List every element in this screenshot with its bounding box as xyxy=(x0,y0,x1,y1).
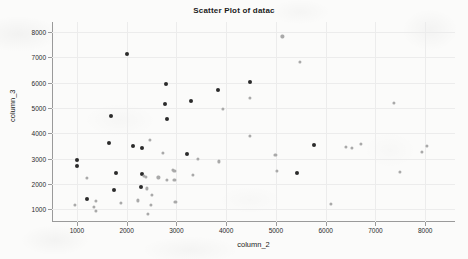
scatter-point xyxy=(161,152,164,155)
scatter-point xyxy=(145,187,148,190)
scatter-point xyxy=(248,80,252,84)
x-axis-label: column_2 xyxy=(52,240,455,249)
gridline-vertical xyxy=(276,22,277,222)
scatter-point xyxy=(192,173,195,176)
y-axis-label: column_3 xyxy=(8,89,17,122)
scatter-point xyxy=(139,185,143,189)
x-tick xyxy=(77,222,78,226)
scatter-point xyxy=(75,158,79,162)
y-tick-label: 6000 xyxy=(32,79,46,86)
scatter-point xyxy=(93,205,96,208)
y-tick xyxy=(48,184,52,185)
scatter-point xyxy=(94,199,97,202)
scatter-point xyxy=(189,99,193,103)
gridline-horizontal xyxy=(52,83,455,84)
x-tick-label: 8000 xyxy=(418,227,432,234)
x-tick xyxy=(176,222,177,226)
y-tick xyxy=(48,32,52,33)
gridline-vertical xyxy=(176,22,177,222)
scatter-point xyxy=(420,151,423,154)
x-tick-label: 7000 xyxy=(368,227,382,234)
x-tick xyxy=(276,222,277,226)
x-tick xyxy=(326,222,327,226)
scatter-point xyxy=(350,146,353,149)
scatter-point xyxy=(148,138,151,141)
scatter-point xyxy=(248,96,251,99)
chart-title: Scatter Plot of datac xyxy=(0,6,468,15)
scatter-point xyxy=(131,144,135,148)
gridline-horizontal xyxy=(52,184,455,185)
x-tick-label: 6000 xyxy=(318,227,332,234)
scatter-point xyxy=(393,101,396,104)
scatter-point xyxy=(218,160,221,163)
scatter-point xyxy=(298,60,301,63)
plot-area: 10002000300040005000600070008000 1000200… xyxy=(52,22,455,222)
scatter-point xyxy=(119,201,122,204)
scatter-point xyxy=(144,175,147,178)
y-tick-label: 7000 xyxy=(32,54,46,61)
scatter-point xyxy=(85,197,89,201)
scatter-point xyxy=(146,212,149,215)
scatter-point xyxy=(114,171,118,175)
scatter-point xyxy=(165,178,168,181)
x-tick-label: 5000 xyxy=(269,227,283,234)
scatter-point xyxy=(344,145,347,148)
scatter-point xyxy=(399,170,402,173)
gridline-horizontal xyxy=(52,209,455,210)
gridline-horizontal xyxy=(52,133,455,134)
scatter-point xyxy=(312,143,316,147)
scatter-point xyxy=(359,142,362,145)
scatter-point xyxy=(281,35,284,38)
scatter-point xyxy=(75,164,79,168)
scatter-point xyxy=(112,188,116,192)
y-tick-label: 8000 xyxy=(32,29,46,36)
x-axis-line xyxy=(52,221,455,222)
gridline-vertical xyxy=(326,22,327,222)
gridline-vertical xyxy=(226,22,227,222)
scatter-point xyxy=(163,102,167,106)
scatter-point xyxy=(109,114,113,118)
y-tick-label: 2000 xyxy=(32,181,46,188)
scatter-point xyxy=(275,169,278,172)
y-tick xyxy=(48,83,52,84)
scatter-point xyxy=(196,158,199,161)
y-tick-label: 5000 xyxy=(32,105,46,112)
x-tick-label: 3000 xyxy=(169,227,183,234)
y-tick xyxy=(48,57,52,58)
scatter-plot-screenshot: Scatter Plot of datac 100020003000400050… xyxy=(0,0,468,259)
gridline-horizontal xyxy=(52,32,455,33)
gridline-horizontal xyxy=(52,108,455,109)
y-tick xyxy=(48,133,52,134)
gridline-horizontal xyxy=(52,57,455,58)
scatter-point xyxy=(248,135,251,138)
x-tick xyxy=(127,222,128,226)
gridline-horizontal xyxy=(52,159,455,160)
y-tick xyxy=(48,209,52,210)
gridline-vertical xyxy=(375,22,376,222)
x-tick-label: 4000 xyxy=(219,227,233,234)
y-tick-label: 1000 xyxy=(32,206,46,213)
y-axis-line xyxy=(52,22,53,222)
scatter-point xyxy=(140,146,144,150)
scatter-point xyxy=(216,88,220,92)
x-tick xyxy=(226,222,227,226)
y-tick xyxy=(48,108,52,109)
y-tick-label: 3000 xyxy=(32,155,46,162)
scatter-point xyxy=(136,199,139,202)
scatter-point xyxy=(164,82,168,86)
x-tick-label: 1000 xyxy=(70,227,84,234)
y-tick-label: 4000 xyxy=(32,130,46,137)
x-tick xyxy=(375,222,376,226)
scatter-point xyxy=(330,202,333,205)
scatter-point xyxy=(425,144,428,147)
scatter-point xyxy=(150,194,153,197)
scatter-point xyxy=(95,209,98,212)
x-tick-label: 2000 xyxy=(119,227,133,234)
gridline-vertical xyxy=(77,22,78,222)
y-tick xyxy=(48,159,52,160)
gridline-vertical xyxy=(425,22,426,222)
scatter-point xyxy=(295,171,299,175)
scatter-point xyxy=(85,176,88,179)
scatter-point xyxy=(157,176,160,179)
x-tick xyxy=(425,222,426,226)
